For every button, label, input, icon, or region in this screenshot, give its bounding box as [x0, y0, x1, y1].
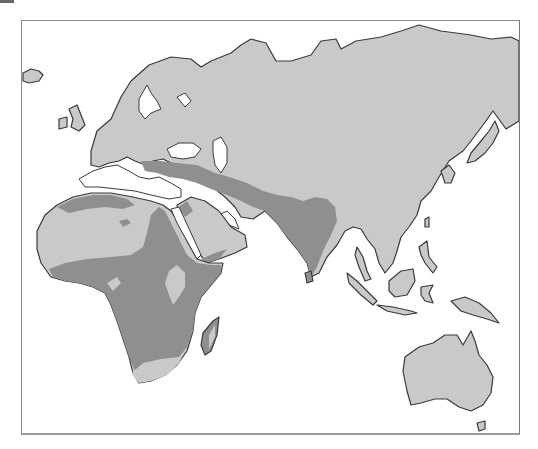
map-frame	[21, 20, 520, 435]
sulawesi	[421, 285, 433, 303]
sri-lanka	[305, 271, 313, 283]
tasmania	[477, 421, 485, 431]
malay-peninsula	[355, 247, 371, 281]
great-britain	[69, 105, 85, 131]
iceland	[23, 69, 43, 83]
new-guinea	[451, 297, 499, 323]
range-map	[22, 21, 519, 433]
philippines	[419, 241, 437, 273]
ireland	[59, 117, 67, 129]
sumatra	[347, 273, 377, 305]
java	[377, 305, 417, 315]
corner-mark	[0, 0, 14, 3]
taiwan	[425, 217, 429, 227]
australia	[403, 331, 493, 411]
borneo	[389, 269, 415, 297]
